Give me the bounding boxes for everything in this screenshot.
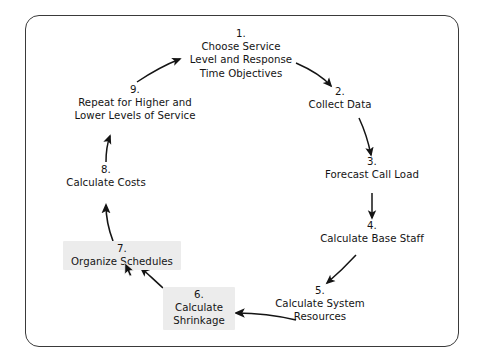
step-label-6-line2: Shrinkage [170, 314, 228, 327]
mouse-cursor-icon [124, 262, 136, 278]
step-label-2-line1: Collect Data [297, 98, 383, 111]
step-label-7-line1: Organize Schedules [70, 255, 174, 268]
step-number-9: 9. [68, 83, 202, 96]
step-number-8: 8. [58, 163, 154, 176]
step-number-4: 4. [310, 219, 434, 232]
step-label-5-line2: Resources [265, 310, 375, 323]
step-number-5: 5. [265, 284, 375, 297]
step-label-8-line1: Calculate Costs [58, 176, 154, 189]
step-label-9-line2: Lower Levels of Service [68, 109, 202, 122]
step-label-9-line1: Repeat for Higher and [68, 96, 202, 109]
step-label-3-line1: Forecast Call Load [312, 168, 432, 181]
step-node-3[interactable]: 3. Forecast Call Load [312, 155, 432, 181]
step-number-2: 2. [297, 85, 383, 98]
step-number-1: 1. [185, 27, 297, 40]
step-label-6-line1: Calculate [170, 301, 228, 314]
step-number-6: 6. [170, 288, 228, 301]
step-label-4-line1: Calculate Base Staff [310, 232, 434, 245]
step-label-1-line1: Choose Service [185, 40, 297, 53]
step-node-7[interactable]: 7. Organize Schedules [63, 241, 181, 270]
step-node-6[interactable]: 6. Calculate Shrinkage [163, 287, 235, 330]
diagram-canvas: 1. Choose Service Level and Response Tim… [0, 0, 481, 364]
step-node-2[interactable]: 2. Collect Data [297, 85, 383, 111]
step-label-5-line1: Calculate System [265, 297, 375, 310]
step-label-1-line3: Time Objectives [185, 67, 297, 80]
step-number-7: 7. [70, 242, 174, 255]
step-node-5[interactable]: 5. Calculate System Resources [265, 284, 375, 324]
step-node-1[interactable]: 1. Choose Service Level and Response Tim… [185, 27, 297, 80]
step-number-3: 3. [312, 155, 432, 168]
step-node-8[interactable]: 8. Calculate Costs [58, 163, 154, 189]
step-node-9[interactable]: 9. Repeat for Higher and Lower Levels of… [68, 83, 202, 123]
step-node-4[interactable]: 4. Calculate Base Staff [310, 219, 434, 245]
step-label-1-line2: Level and Response [185, 53, 297, 66]
